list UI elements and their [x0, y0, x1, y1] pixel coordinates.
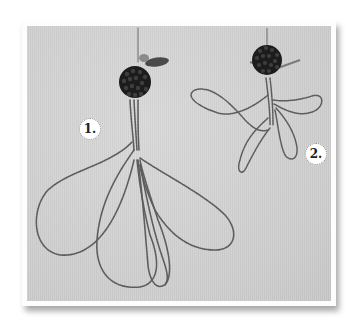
item1-bead-ball: [119, 66, 151, 98]
step-2-label: 2.: [310, 147, 323, 161]
step-2-badge: 2.: [305, 143, 327, 165]
beadwork-illustration: [27, 26, 331, 301]
photo-frame: 1. 2.: [22, 21, 336, 306]
step-1-badge: 1.: [79, 118, 101, 140]
photo: 1. 2.: [27, 26, 331, 301]
item2-bead-ball: [252, 45, 282, 75]
item1-leaf: [139, 54, 170, 68]
step-1-label: 1.: [84, 122, 97, 136]
